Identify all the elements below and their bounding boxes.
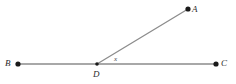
point-label-d: D bbox=[93, 70, 100, 79]
point-label-c: C bbox=[221, 59, 227, 68]
point-b-dot bbox=[15, 61, 20, 66]
point-label-a: A bbox=[192, 5, 198, 14]
point-c-dot bbox=[213, 61, 218, 66]
point-a-dot bbox=[185, 6, 190, 11]
point-d-dot bbox=[95, 62, 99, 66]
geometry-figure: A B C D x bbox=[0, 0, 236, 84]
ray-da bbox=[97, 9, 188, 64]
point-label-b: B bbox=[5, 59, 11, 68]
geometry-canvas bbox=[0, 0, 236, 84]
angle-label-x: x bbox=[114, 56, 117, 63]
